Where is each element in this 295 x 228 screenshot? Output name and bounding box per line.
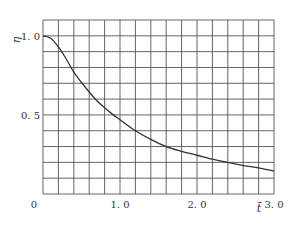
x-tick-label: 2. 0	[187, 199, 206, 210]
data-line	[43, 36, 274, 171]
x-tick-label: 0	[31, 199, 37, 210]
tick-labels: 01. 02. 03. 00. 51. 0	[21, 31, 284, 210]
chart: 01. 02. 03. 00. 51. 0 η t̄	[0, 0, 295, 228]
y-tick-label: 0. 5	[21, 110, 40, 121]
y-axis-label: η	[10, 36, 23, 43]
grid-lines	[43, 20, 274, 194]
y-tick-label: 1. 0	[21, 31, 40, 42]
x-axis-label: t̄	[257, 202, 262, 215]
x-tick-label: 1. 0	[110, 199, 129, 210]
x-tick-label: 3. 0	[264, 199, 283, 210]
